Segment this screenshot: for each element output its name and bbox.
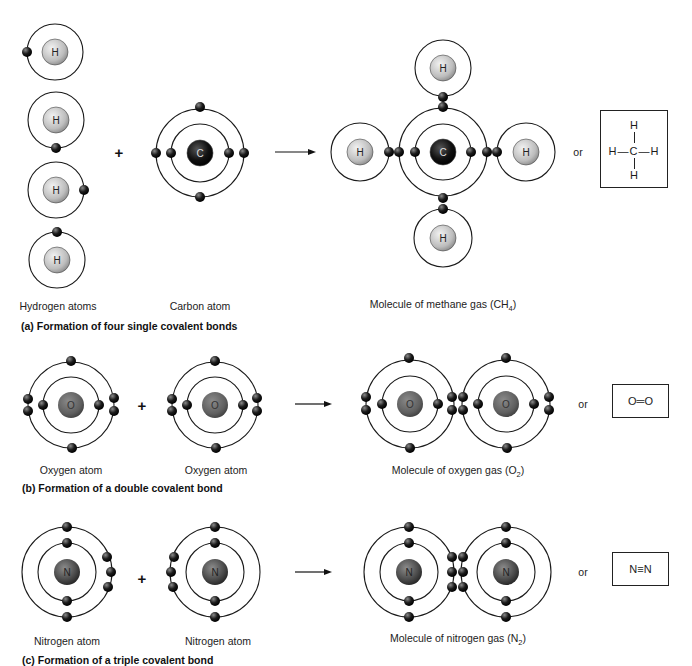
methane-structural-formula: H H—C—H H (600, 110, 668, 188)
oxygen-structural-formula: O═O (612, 384, 669, 418)
hydrogen-symbol: H (52, 185, 59, 196)
oxygen-atom-label-1: Oxygen atom (40, 464, 102, 476)
label-text: Molecule of oxygen gas (O (392, 464, 517, 476)
nitrogen-atom-label-2: Nitrogen atom (185, 635, 251, 647)
arrow-icon (295, 401, 332, 407)
label-text: ) (523, 632, 527, 644)
hydrogen-symbol: H (51, 47, 58, 58)
oxygen-symbol: O (406, 399, 414, 410)
or-label: or (578, 398, 587, 410)
oxygen-atom-label-2: Oxygen atom (185, 464, 247, 476)
oxygen-molecule-label: Molecule of oxygen gas (O2) (392, 464, 525, 479)
caption-a: (a) Formation of four single covalent bo… (21, 320, 237, 332)
formula-text: O═O (628, 395, 653, 407)
label-text: Molecule of methane gas (CH (370, 298, 509, 310)
caption-b: (b) Formation of a double covalent bond (22, 482, 223, 494)
hydrogen-symbol: H (53, 255, 60, 266)
oxygen-symbol: O (502, 399, 510, 410)
carbon-symbol: C (196, 148, 203, 159)
formula-middle: H—C—H (601, 145, 667, 157)
nitrogen-symbol: N (502, 567, 509, 578)
hydrogen-symbol: H (52, 115, 59, 126)
arrow-icon (275, 149, 316, 155)
hydrogen-symbol: H (522, 147, 529, 158)
reaction-arrows (275, 149, 332, 575)
hydrogen-symbol: H (439, 233, 446, 244)
oxygen-molecule (366, 360, 550, 448)
nitrogen-atom-label-1: Nitrogen atom (34, 635, 100, 647)
hydrogen-symbol: H (439, 63, 446, 74)
nitrogen-structural-formula: N≡N (612, 552, 669, 586)
caption-c: (c) Formation of a triple covalent bond (22, 654, 213, 666)
label-text: ) (521, 464, 525, 476)
hydrogen-atoms-label: Hydrogen atoms (19, 300, 96, 312)
or-label: or (578, 566, 587, 578)
bond-line (634, 158, 635, 169)
plus-icon: + (138, 397, 147, 414)
carbon-symbol: C (439, 147, 446, 158)
formula-text: N≡N (629, 563, 651, 575)
label-text: ) (513, 298, 517, 310)
or-label: or (573, 146, 582, 158)
arrow-icon (295, 569, 332, 575)
nitrogen-molecule (364, 527, 551, 617)
hydrogen-symbol: H (356, 147, 363, 158)
bond-line (634, 132, 635, 143)
plus-icon: + (138, 570, 147, 587)
plus-icon: + (115, 144, 124, 161)
nitrogen-symbol: N (405, 567, 412, 578)
nitrogen-symbol: N (63, 567, 70, 578)
formula-bottom-h: H (601, 169, 667, 181)
formula-top-h: H (601, 119, 667, 131)
label-text: Molecule of nitrogen gas (N (390, 632, 518, 644)
oxygen-symbol: O (211, 400, 219, 411)
oxygen-symbol: O (67, 400, 75, 411)
carbon-atom-label: Carbon atom (170, 300, 231, 312)
electrons (22, 47, 554, 622)
nitrogen-symbol: N (211, 567, 218, 578)
methane-molecule-label: Molecule of methane gas (CH4) (370, 298, 517, 313)
plus-signs: + + + (115, 144, 147, 587)
nitrogen-molecule-label: Molecule of nitrogen gas (N2) (390, 632, 526, 647)
